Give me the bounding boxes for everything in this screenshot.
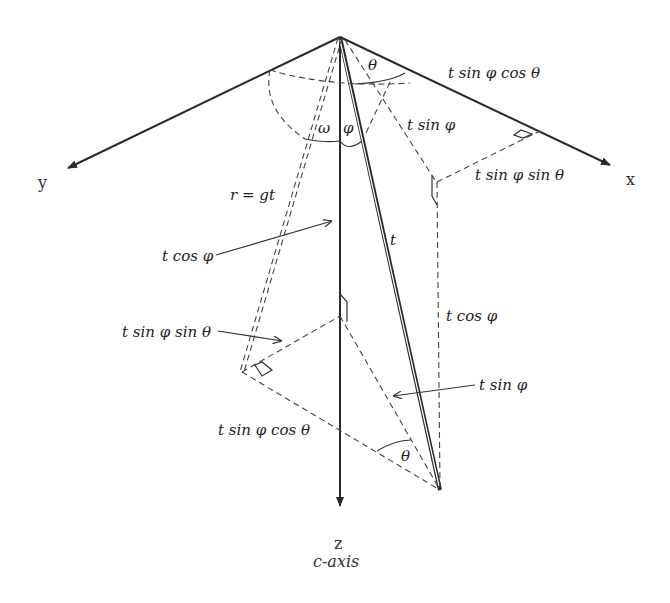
pointer-tsinphi-right (393, 385, 475, 396)
x-axis-label: x (626, 170, 635, 189)
tcosphi-left-label: t cos φ (162, 247, 214, 265)
t-label: t (390, 231, 397, 249)
crystal-axis-diagram: y x z c-axis θ ω φ t r = gt t sin φ cos … (0, 0, 670, 603)
theta-top-label: θ (368, 56, 377, 74)
omega-label: ω (318, 119, 330, 137)
tsinphicostheta-top-label: t sin φ cos θ (448, 64, 540, 82)
phi-arc (340, 141, 362, 147)
right-angle-vertical (432, 176, 437, 205)
tsinphi-right-label: t sin φ (479, 376, 528, 394)
c-axis-label: c-axis (313, 552, 359, 571)
theta-arc-top (355, 73, 405, 84)
right-angle-left (255, 362, 272, 376)
y-axis-label: y (37, 173, 47, 192)
tsinphicostheta-bottom-label: t sin φ cos θ (218, 421, 310, 439)
omega-arc (305, 139, 340, 142)
tsinphisintheta-left-label: t sin φ sin θ (122, 323, 211, 341)
cone-dash-right (365, 82, 390, 135)
dash-z-to-bottom (340, 316, 440, 490)
tcosphi-right-label: t cos φ (446, 307, 498, 325)
dash-left-to-z (242, 316, 340, 372)
t-vector-inner (340, 40, 439, 486)
dash-vertical-tcosphi (437, 182, 440, 488)
phi-label: φ (343, 119, 354, 137)
r-gt-line-a (240, 38, 338, 372)
cone-arc-left (269, 70, 305, 139)
z-axis-label: z (334, 534, 342, 553)
right-angle-z (341, 295, 347, 322)
r-gt-label: r = gt (230, 186, 276, 204)
pointer-tcosphi-left (216, 221, 332, 255)
tsinphisintheta-right-label: t sin φ sin θ (475, 166, 564, 184)
tsinphi-top-label: t sin φ (407, 116, 456, 134)
y-axis (68, 37, 340, 168)
theta-bottom-label: θ (401, 447, 410, 465)
r-gt-line-b (244, 38, 342, 372)
